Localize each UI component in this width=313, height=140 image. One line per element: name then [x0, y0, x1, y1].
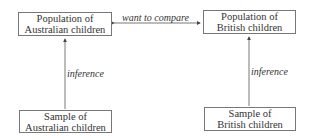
- node-line-2: British children: [205, 119, 295, 130]
- node-line-2: Australian children: [20, 122, 111, 133]
- sample-australian-box: Sample of Australian children: [19, 110, 112, 133]
- population-british-box: Population of British children: [203, 10, 296, 34]
- node-line-1: Sample of: [20, 111, 111, 122]
- node-line-1: Population of: [19, 13, 111, 24]
- inference-label-right: inference: [251, 66, 288, 77]
- inference-label-left: inference: [67, 68, 104, 79]
- sample-british-box: Sample of British children: [204, 107, 296, 131]
- node-line-2: Australian children: [19, 24, 111, 35]
- population-australian-box: Population of Australian children: [18, 12, 112, 36]
- node-line-1: Sample of: [205, 108, 295, 119]
- node-line-2: British children: [204, 22, 295, 33]
- compare-label: want to compare: [122, 12, 189, 23]
- node-line-1: Population of: [204, 11, 295, 22]
